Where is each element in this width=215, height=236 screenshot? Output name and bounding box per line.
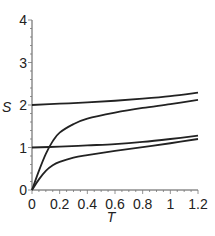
- x-tick-label: 1: [166, 196, 174, 212]
- line-chart: 0123400.20.40.60.811.2 S T: [0, 0, 215, 236]
- x-tick-label: 0.8: [133, 196, 153, 212]
- x-axis-label: T: [107, 209, 117, 225]
- y-tick-label: 2: [19, 97, 27, 113]
- series-line-curve-3: [32, 136, 198, 148]
- x-tick-label: 0.4: [78, 196, 98, 212]
- x-tick-label: 0.2: [50, 196, 70, 212]
- y-tick-label: 1: [19, 140, 27, 156]
- y-tick-label: 0: [19, 182, 27, 198]
- x-tick-label: 0: [28, 196, 36, 212]
- x-tick-label: 1.2: [188, 196, 208, 212]
- y-tick-label: 3: [19, 55, 27, 71]
- axes: 0123400.20.40.60.811.2: [19, 12, 208, 212]
- plot-lines: [32, 93, 198, 190]
- y-axis-label: S: [2, 99, 12, 115]
- y-tick-label: 4: [19, 12, 27, 28]
